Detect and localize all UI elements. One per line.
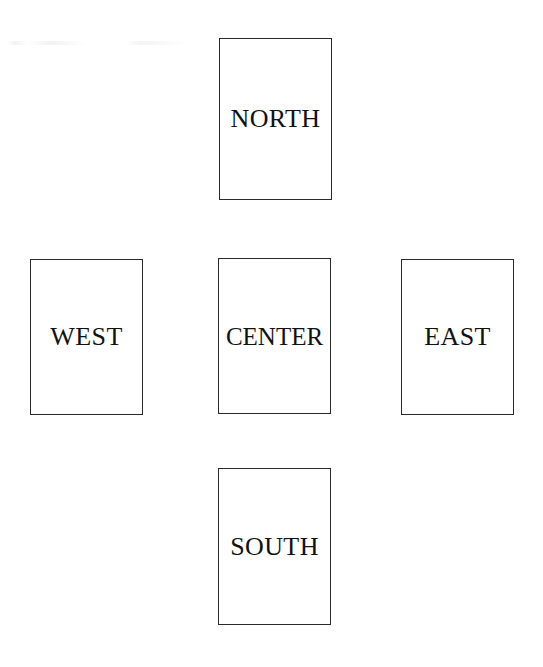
layout-region-south[interactable]: SOUTH — [218, 468, 331, 625]
layout-region-east[interactable]: EAST — [401, 259, 514, 415]
layout-region-east-label: EAST — [424, 324, 491, 350]
scanned-page: NORTH WEST CENTER EAST SOUTH — [0, 0, 543, 667]
layout-region-center-label: CENTER — [226, 324, 323, 349]
layout-region-center[interactable]: CENTER — [218, 258, 331, 414]
layout-region-west-label: WEST — [50, 324, 122, 350]
layout-region-south-label: SOUTH — [230, 534, 319, 560]
scan-smudge-artifact — [8, 41, 186, 45]
layout-region-west[interactable]: WEST — [30, 259, 143, 415]
layout-region-north[interactable]: NORTH — [219, 38, 332, 200]
layout-region-north-label: NORTH — [231, 106, 321, 132]
